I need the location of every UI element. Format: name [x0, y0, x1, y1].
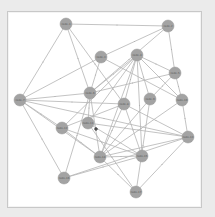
edge-label-marker	[142, 145, 143, 146]
node-label: node-12	[57, 127, 68, 130]
graph-node-n7[interactable]: node-7	[14, 94, 26, 106]
node-label: node-3	[96, 56, 105, 59]
graph-node-n1[interactable]: node-1	[60, 18, 72, 30]
node-label: node-5	[170, 72, 179, 75]
graph-node-n15[interactable]: node-15	[136, 150, 148, 162]
node-label: node-2	[163, 25, 172, 28]
edges-layer	[20, 24, 188, 192]
edge-label-marker	[76, 135, 77, 136]
node-label: node-10	[177, 99, 188, 102]
edge-label-marker	[116, 24, 117, 25]
graph-node-n4[interactable]: node-4	[131, 49, 143, 61]
edge-label-marker	[112, 88, 113, 89]
network-graph[interactable]: node-1node-2node-3node-4node-5node-6node…	[0, 0, 215, 217]
node-label: node-8	[119, 103, 128, 106]
edge-label-marker	[184, 118, 185, 119]
edge-label-marker	[171, 49, 172, 50]
node-label: node-4	[132, 54, 141, 57]
edge-label-marker	[95, 74, 96, 75]
edge-label-marker	[111, 130, 112, 131]
graph-node-n14[interactable]: node-14	[94, 151, 106, 163]
edge-label-marker	[125, 157, 126, 158]
graph-node-n2[interactable]: node-2	[162, 20, 174, 32]
edge-label-marker	[137, 129, 138, 130]
node-label: node-13	[183, 136, 194, 139]
node-label: node-16	[59, 177, 70, 180]
node-label: node-7	[15, 99, 24, 102]
edge-label-marker	[41, 138, 42, 139]
graph-node-n6[interactable]: node-6	[84, 87, 96, 99]
edge-label-marker	[130, 79, 131, 80]
edge-label-marker	[117, 174, 118, 175]
graph-node-n13[interactable]: node-13	[182, 131, 194, 143]
node-label: node-9	[145, 98, 154, 101]
edge-label-marker	[155, 120, 156, 121]
edge-label-marker	[113, 73, 114, 74]
edge-label-marker	[162, 85, 163, 86]
edge-label-marker	[155, 63, 156, 64]
node-label: node-11	[83, 122, 94, 125]
edge-label-marker	[139, 105, 140, 106]
edge-label-marker	[94, 124, 95, 125]
edge-label-marker	[140, 128, 141, 129]
graph-node-n10[interactable]: node-10	[176, 94, 188, 106]
edge-label-marker	[128, 59, 129, 60]
graph-node-n8[interactable]: node-8	[118, 98, 130, 110]
edge-label-marker	[132, 82, 133, 83]
node-label: node-14	[95, 156, 106, 159]
edge-label-marker	[103, 118, 104, 119]
edge-label-marker	[143, 146, 144, 147]
graph-node-n16[interactable]: node-16	[58, 172, 70, 184]
edge-label-marker	[102, 166, 103, 167]
edge-label-marker	[94, 63, 95, 64]
crosshair-cursor-icon	[94, 127, 98, 131]
edge-label-marker	[178, 86, 179, 87]
edge-label-marker	[80, 142, 81, 143]
edge-label-marker	[114, 139, 115, 140]
edge-label-marker	[77, 58, 78, 59]
graph-node-n3[interactable]: node-3	[95, 51, 107, 63]
node-label: node-15	[137, 155, 148, 158]
nodes-layer: node-1node-2node-3node-4node-5node-6node…	[14, 18, 194, 198]
graph-node-n12[interactable]: node-12	[56, 122, 68, 134]
edge-label-marker	[42, 61, 43, 62]
edge-label-marker	[71, 101, 72, 102]
node-label: node-17	[131, 191, 142, 194]
edge-label-marker	[143, 76, 144, 77]
edge-label-marker	[88, 107, 89, 108]
edge-label-marker	[120, 156, 121, 157]
edge-label-marker	[101, 141, 102, 142]
graph-node-n9[interactable]: node-9	[144, 93, 156, 105]
graph-node-n5[interactable]: node-5	[169, 67, 181, 79]
edge-label-marker	[134, 41, 135, 42]
edge-label-marker	[54, 96, 55, 97]
graph-node-n11[interactable]: node-11	[82, 117, 94, 129]
graph-node-n17[interactable]: node-17	[130, 186, 142, 198]
node-label: node-1	[61, 23, 70, 26]
edge-label-marker	[92, 115, 93, 116]
node-label: node-6	[85, 92, 94, 95]
edge-label-marker	[141, 78, 142, 79]
edge-label-marker	[60, 78, 61, 79]
edge-label-marker	[161, 164, 162, 165]
